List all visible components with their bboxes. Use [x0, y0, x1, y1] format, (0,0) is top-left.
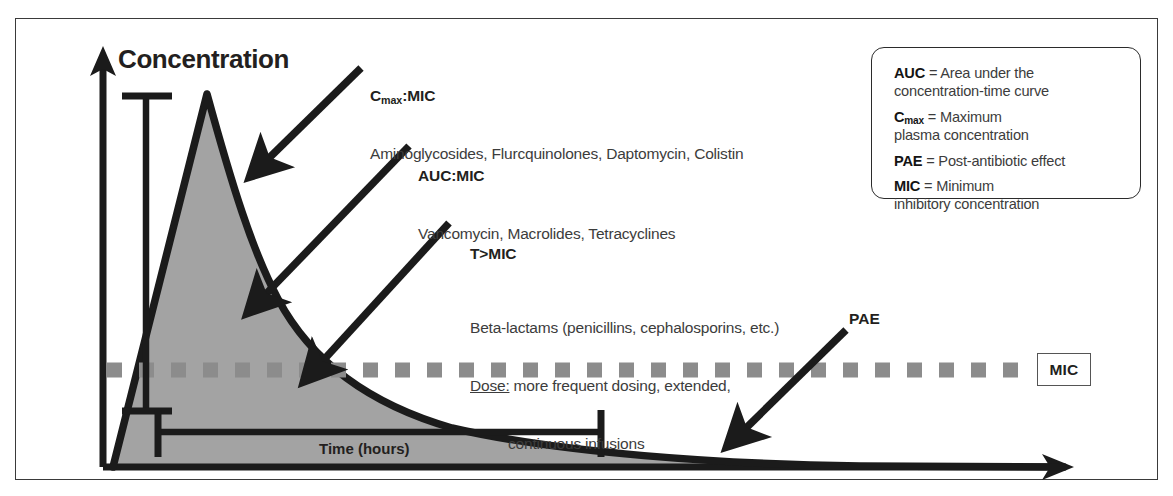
legend-abbr-auc: AUC — [894, 65, 925, 81]
annotation-t-mic-body-line3: continuous infusions — [470, 435, 779, 454]
annotation-cmax-mic-heading: Cmax:MIC — [370, 87, 743, 106]
legend-def-cmax-line2: plasma concentration — [894, 126, 1134, 144]
legend-def-pae-line1: = Post-antibiotic effect — [926, 153, 1065, 169]
annotation-t-mic-heading: T>MIC — [470, 245, 779, 264]
legend-def-mic-line1: = Minimum — [924, 178, 994, 194]
legend-abbr-pae: PAE — [894, 153, 922, 169]
annotation-auc-mic-heading: AUC:MIC — [418, 167, 675, 186]
dose-rest-line: more frequent dosing, extended, — [510, 377, 731, 394]
legend-abbr-mic: MIC — [894, 178, 920, 194]
cmax-mic-leader-arrow — [266, 68, 361, 161]
legend-def-mic-line2: inhibitory concentration — [894, 195, 1134, 213]
legend-def-auc-line2: concentration-time curve — [894, 82, 1134, 100]
y-axis-title: Concentration — [118, 44, 289, 76]
mic-tag-box: MIC — [1037, 353, 1091, 386]
pkpd-figure: Concentration Time (hours) Cmax:MIC Amin… — [0, 0, 1173, 496]
legend-def-cmax-line1: = Maximum — [928, 109, 1002, 125]
annotation-t-mic-body-line1: Beta-lactams (penicillins, cephalosporin… — [470, 319, 779, 338]
legend-entry-pae: PAE = Post-antibiotic effect — [894, 152, 1134, 170]
dose-underlined-label: Dose: — [470, 377, 510, 394]
x-axis-title: Time (hours) — [319, 440, 410, 458]
legend-abbr-cmax: Cmax — [894, 109, 924, 125]
annotation-t-mic-body-line2: Dose: more frequent dosing, extended, — [470, 377, 779, 396]
legend-def-auc-line1: = Area under the — [929, 65, 1034, 81]
legend-entry-auc: AUC = Area under the concentration-time … — [894, 64, 1134, 100]
legend-entry-mic: MIC = Minimum inhibitory concentration — [894, 177, 1134, 213]
annotation-t-mic: T>MIC Beta-lactams (penicillins, cephalo… — [470, 206, 779, 493]
legend-entry-cmax: Cmax = Maximum plasma concentration — [894, 108, 1134, 144]
pae-pointer-label: PAE — [849, 310, 880, 329]
